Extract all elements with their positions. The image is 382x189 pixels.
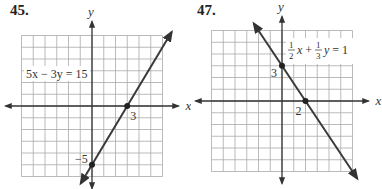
svg-text:1: 1 [289, 40, 294, 50]
graph-47-svg: xy3212x +13y = 1 [191, 0, 382, 189]
intercept-point [89, 162, 95, 168]
graph-45-svg: xy3−55x − 3y = 15 [0, 0, 191, 189]
svg-text:y = 1: y = 1 [323, 43, 348, 57]
y-axis-label: y [86, 4, 94, 19]
point-label: −5 [75, 152, 88, 166]
svg-text:2: 2 [289, 51, 294, 61]
x-axis-label: x [375, 93, 382, 108]
point-label: 2 [296, 104, 302, 118]
graph-panel-45: 45. xy3−55x − 3y = 15 [0, 0, 191, 189]
equation-label: 5x − 3y = 15 [26, 67, 88, 81]
point-label: 3 [130, 109, 136, 123]
point-label: 3 [271, 66, 277, 80]
graph-panel-47: 47. xy3212x +13y = 1 [191, 0, 382, 189]
intercept-point [279, 63, 285, 69]
intercept-point [303, 98, 309, 104]
svg-text:3: 3 [316, 51, 321, 61]
svg-text:x +: x + [296, 43, 312, 57]
y-axis-label: y [276, 0, 284, 14]
svg-text:1: 1 [316, 40, 321, 50]
equation-label: 12x +13y = 1 [286, 38, 354, 64]
